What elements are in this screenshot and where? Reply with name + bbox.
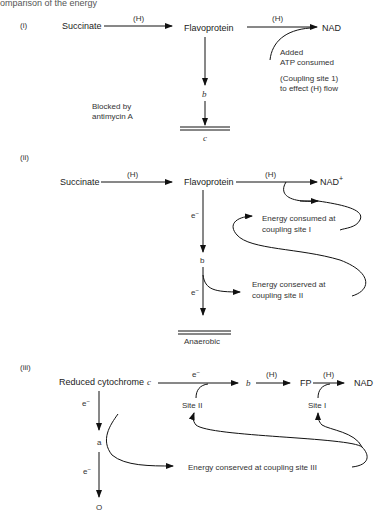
- node-c: c: [203, 133, 207, 143]
- note-coupling-site-i: coupling site I: [262, 225, 311, 234]
- edge-label-h: (H): [323, 370, 334, 379]
- node-nad: NAD: [354, 378, 374, 388]
- edge-label-h: (H): [265, 170, 276, 179]
- node-flavoprotein: Flavoprotein: [184, 23, 234, 33]
- note-coupling-site-ii: coupling site II: [252, 291, 303, 300]
- edge-label-e: e−: [192, 369, 200, 379]
- node-a: a: [97, 438, 102, 447]
- edge-label-h: (H): [266, 370, 277, 379]
- note-added: Added: [280, 48, 303, 57]
- node-site-ii: Site II: [182, 401, 202, 410]
- node-b: b: [246, 378, 251, 388]
- note-blocked-by: Blocked by: [92, 102, 131, 111]
- node-b: b: [200, 256, 205, 265]
- edge-label-e: e−: [83, 466, 91, 476]
- edge-label-h: (H): [127, 170, 138, 179]
- site-i-curve: [318, 384, 330, 398]
- note-energy-consumed: Energy consumed at: [262, 214, 336, 223]
- edge-label-e: e−: [82, 398, 90, 408]
- node-o: O: [96, 503, 102, 512]
- edge-label-e: e−: [191, 287, 199, 297]
- node-fp: FP: [300, 378, 312, 388]
- node-succinate: Succinate: [60, 177, 100, 187]
- electron-transport-diagram: omparison of the energy (i) Succinate (H…: [0, 0, 379, 522]
- edge-label-e: e−: [191, 210, 199, 220]
- edge-label-h: (H): [272, 14, 283, 23]
- note-energy-conserved-iii: Energy conserved at coupling site III: [188, 463, 317, 472]
- energy-to-site-ii: [193, 413, 367, 467]
- node-flavoprotein: Flavoprotein: [184, 177, 234, 187]
- site-ii-curve: [196, 384, 208, 398]
- note-antimycin: antimycin A: [92, 112, 134, 121]
- panel-iii: (iii) Reduced cytochromec e− b (H) FP (H…: [20, 363, 374, 512]
- energy-conserved-branch: [203, 275, 240, 292]
- note-effect-h-flow: to effect (H) flow: [280, 84, 338, 93]
- node-b: b: [202, 89, 207, 99]
- energy-conserved-branch: [106, 414, 173, 466]
- panel-label: (iii): [20, 363, 31, 372]
- header-caption: omparison of the energy: [0, 0, 98, 8]
- node-reduced-cytochrome: Reduced cytochromec: [59, 377, 151, 387]
- note-coupling-site: (Coupling site 1): [280, 74, 339, 83]
- panel-label: (ii): [20, 153, 29, 162]
- node-site-i: Site I: [308, 401, 326, 410]
- panel-i: (i) Succinate (H) Flavoprotein (H) NAD A…: [20, 14, 342, 143]
- note-atp-consumed: ATP consumed: [280, 58, 334, 67]
- panel-ii: (ii) Succinate (H) Flavoprotein (H) NAD+…: [20, 153, 366, 346]
- node-nad: NAD+: [320, 175, 343, 187]
- edge-label-h: (H): [133, 14, 144, 23]
- node-nad: NAD: [322, 23, 342, 33]
- node-anaerobic: Anaerobic: [184, 337, 220, 346]
- note-energy-conserved: Energy conserved at: [252, 280, 326, 289]
- node-succinate: Succinate: [62, 21, 102, 31]
- panel-label: (i): [20, 21, 27, 30]
